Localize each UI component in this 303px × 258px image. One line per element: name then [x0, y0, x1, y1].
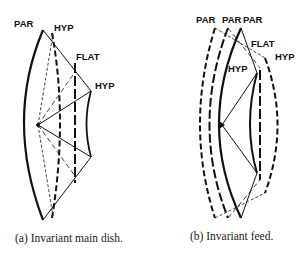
- hyp-inner-curve: [250, 73, 257, 173]
- label-b-par-2: PAR: [222, 14, 241, 25]
- focal-point-a: [37, 124, 40, 127]
- label-b-hyp-inner: HYP: [228, 63, 248, 74]
- panel-b-diagram: [200, 28, 278, 218]
- caption-b: (b) Invariant feed.: [190, 230, 273, 243]
- par-dish-1: [200, 28, 215, 218]
- par-dish-3: [219, 28, 241, 218]
- figure-canvas: PAR HYP FLAT HYP PAR PAR PAR FLAT HYP HY…: [0, 0, 303, 258]
- hyp-subreflector-solid: [87, 91, 92, 157]
- caption-a: (a) Invariant main dish.: [15, 232, 123, 245]
- hyp-subreflector-dashed: [52, 33, 60, 218]
- label-b-hyp-outer: HYP: [275, 51, 295, 62]
- label-b-par-3: PAR: [243, 14, 262, 25]
- main-dish-curve: [24, 30, 43, 220]
- label-a-hyp-top: HYP: [54, 22, 74, 33]
- label-a-par: PAR: [14, 18, 33, 29]
- label-a-hyp-right: HYP: [95, 80, 115, 91]
- label-b-par-1: PAR: [196, 14, 215, 25]
- hyp-outer-curve: [265, 58, 278, 193]
- label-b-flat: FLAT: [251, 38, 275, 49]
- label-a-flat: FLAT: [76, 51, 100, 62]
